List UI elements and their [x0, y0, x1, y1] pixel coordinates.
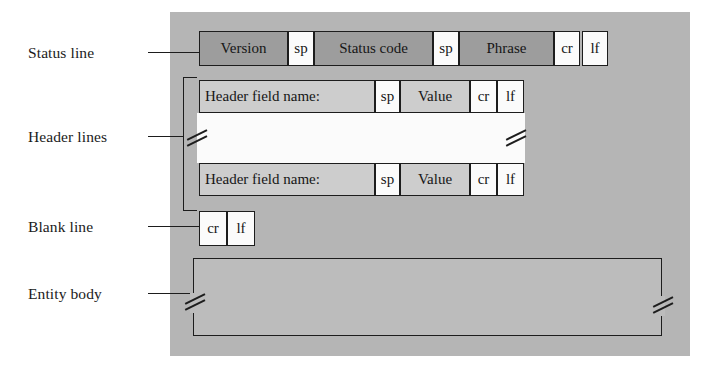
status-line-cell-version: Version	[199, 31, 288, 66]
header-line-first-cell-value: Value	[400, 80, 470, 113]
blank-line-cell-cr: cr	[199, 211, 227, 246]
header-line-first-cell-sp: sp	[375, 80, 400, 113]
header-line-last-cell-lf: lf	[497, 163, 524, 196]
status-line-cell-lf: lf	[582, 31, 608, 66]
status-line-cell-phrase: Phrase	[459, 31, 554, 66]
entity-body-box	[193, 258, 662, 336]
header-lines-gap	[197, 113, 525, 163]
header-line-first-cell-lf: lf	[497, 80, 524, 113]
status-line-cell-status-code: Status code	[314, 31, 433, 66]
header-line-first-cell-name: Header field name:	[199, 80, 375, 113]
blank-line-cell-lf: lf	[227, 211, 255, 246]
break-mark-header-gap-right	[505, 127, 527, 149]
label-header-lines: Header lines	[28, 128, 107, 146]
leader-status-line	[148, 52, 200, 53]
label-blank-line: Blank line	[28, 218, 93, 236]
leader-blank-line	[148, 226, 200, 227]
break-mark-entity-body-left	[184, 291, 206, 313]
break-mark-header-gap-left	[186, 127, 208, 149]
status-line-cell-sp-1: sp	[288, 31, 314, 66]
leader-header-lines	[148, 136, 184, 137]
status-line-cell-sp-2: sp	[433, 31, 459, 66]
label-entity-body: Entity body	[28, 285, 102, 303]
status-line-cell-cr: cr	[554, 31, 580, 66]
break-mark-entity-body-right	[652, 294, 674, 316]
header-line-last-cell-cr: cr	[470, 163, 497, 196]
header-line-first-cell-cr: cr	[470, 80, 497, 113]
header-line-last-cell-sp: sp	[375, 163, 400, 196]
header-line-last-cell-name: Header field name:	[199, 163, 375, 196]
header-line-last-cell-value: Value	[400, 163, 470, 196]
diagram-canvas: Status line Header lines Blank line Enti…	[0, 0, 710, 377]
label-status-line: Status line	[28, 44, 94, 62]
